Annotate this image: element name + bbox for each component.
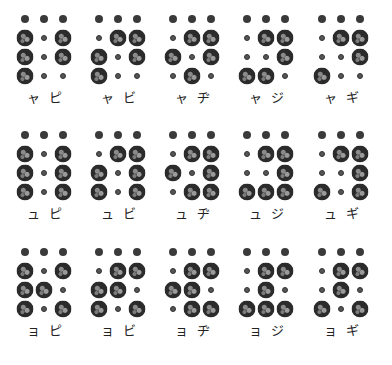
flat-dot: [282, 73, 288, 79]
small-kana: ャ: [27, 91, 40, 105]
base-kana: ヂ: [197, 207, 210, 221]
braille-cell: ョギ: [322, 252, 382, 352]
small-kana: ョ: [324, 324, 337, 338]
braille-cell: ャピ: [25, 19, 85, 119]
flat-dot: [319, 170, 325, 176]
small-kana: ャ: [101, 91, 114, 105]
base-kana: ヂ: [197, 324, 210, 338]
base-kana: ジ: [271, 324, 284, 338]
raised-dot: [352, 49, 369, 66]
raised-dot: [314, 68, 331, 85]
guide-dot: [95, 15, 103, 23]
raised-dot: [55, 263, 72, 280]
flat-dot: [282, 287, 288, 293]
flat-dot: [115, 189, 121, 195]
raised-dot: [184, 184, 201, 201]
raised-dot: [258, 184, 275, 201]
guide-dot: [262, 248, 270, 256]
guide-dot: [207, 248, 215, 256]
raised-dot: [352, 165, 369, 182]
raised-dot: [110, 30, 127, 47]
raised-dot: [165, 282, 182, 299]
base-kana: ヂ: [197, 91, 210, 105]
braille-cell: ャジ: [247, 19, 307, 119]
guide-dot: [21, 131, 29, 139]
raised-dot: [165, 165, 182, 182]
flat-dot: [170, 306, 176, 312]
raised-dot: [333, 146, 350, 163]
guide-dot: [169, 15, 177, 23]
small-kana: ャ: [249, 91, 262, 105]
raised-dot: [184, 146, 201, 163]
raised-dot: [277, 165, 294, 182]
flat-dot: [208, 287, 214, 293]
braille-cell: ョビ: [99, 252, 159, 352]
guide-dot: [356, 131, 364, 139]
guide-dot: [243, 131, 251, 139]
braille-cell: ュビ: [99, 135, 159, 235]
flat-dot: [338, 170, 344, 176]
braille-cell: ャヂ: [173, 19, 233, 119]
flat-dot: [170, 268, 176, 274]
guide-dot: [114, 15, 122, 23]
flat-dot: [338, 189, 344, 195]
raised-dot: [203, 146, 220, 163]
flat-dot: [60, 287, 66, 293]
guide-dot: [133, 15, 141, 23]
raised-dot: [55, 301, 72, 318]
guide-dot: [337, 131, 345, 139]
flat-dot: [96, 151, 102, 157]
raised-dot: [91, 49, 108, 66]
small-kana: ョ: [101, 324, 114, 338]
guide-dot: [281, 131, 289, 139]
small-kana: ョ: [175, 324, 188, 338]
flat-dot: [41, 189, 47, 195]
guide-dot: [281, 15, 289, 23]
flat-dot: [134, 287, 140, 293]
raised-dot: [258, 263, 275, 280]
raised-dot: [17, 30, 34, 47]
base-kana: ギ: [346, 207, 359, 221]
flat-dot: [189, 54, 195, 60]
raised-dot: [17, 301, 34, 318]
flat-dot: [41, 151, 47, 157]
guide-dot: [318, 248, 326, 256]
braille-cell: ャギ: [322, 19, 382, 119]
raised-dot: [277, 30, 294, 47]
base-kana: ビ: [123, 91, 136, 105]
braille-cell: ョピ: [25, 252, 85, 352]
guide-dot: [40, 15, 48, 23]
raised-dot: [91, 68, 108, 85]
guide-dot: [133, 248, 141, 256]
base-kana: ジ: [271, 207, 284, 221]
guide-dot: [114, 248, 122, 256]
raised-dot: [184, 282, 201, 299]
small-kana: ュ: [175, 207, 188, 221]
small-kana: ャ: [175, 91, 188, 105]
base-kana: ピ: [49, 324, 62, 338]
guide-dot: [59, 248, 67, 256]
flat-dot: [319, 54, 325, 60]
raised-dot: [17, 263, 34, 280]
raised-dot: [277, 49, 294, 66]
braille-cell: ャビ: [99, 19, 159, 119]
raised-dot: [258, 30, 275, 47]
small-kana: ュ: [101, 207, 114, 221]
guide-dot: [95, 131, 103, 139]
raised-dot: [352, 301, 369, 318]
guide-dot: [188, 15, 196, 23]
flat-dot: [170, 35, 176, 41]
raised-dot: [17, 165, 34, 182]
raised-dot: [333, 30, 350, 47]
flat-dot: [244, 151, 250, 157]
guide-dot: [207, 131, 215, 139]
flat-dot: [263, 170, 269, 176]
raised-dot: [55, 146, 72, 163]
flat-dot: [41, 306, 47, 312]
guide-dot: [114, 131, 122, 139]
braille-cell: ョジ: [247, 252, 307, 352]
flat-dot: [244, 287, 250, 293]
raised-dot: [129, 146, 146, 163]
raised-dot: [129, 301, 146, 318]
small-kana: ャ: [324, 91, 337, 105]
